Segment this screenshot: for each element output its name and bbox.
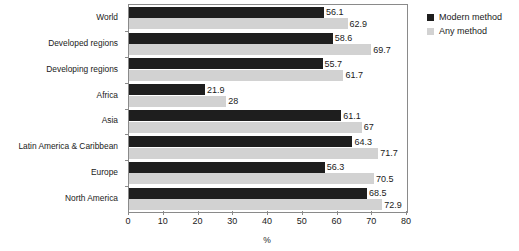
bar-modern-method [129,110,341,121]
bar-any-method [129,96,226,107]
x-axis-tick-label: 20 [192,217,202,226]
x-axis-tick-label: 10 [158,217,168,226]
bar-modern-method [129,84,205,95]
y-axis-tick [125,109,129,110]
bar-modern-method [129,136,352,147]
bar-value-label: 58.6 [335,34,353,43]
chart-legend: Modern methodAny method [427,12,517,40]
x-axis-tick-label: 80 [401,217,411,226]
bar-any-method [129,122,362,133]
category-label: Developed regions [48,39,118,47]
bar-value-label: 68.5 [369,189,387,198]
category-label: Africa [97,90,118,98]
x-axis-tick [337,211,338,215]
y-axis-category-labels: WorldDeveloped regionsDeveloping regions… [0,4,124,211]
y-axis-tick [125,31,129,32]
bar-value-label: 28 [228,97,238,106]
x-axis-tick-label: 70 [366,217,376,226]
bar-chart: WorldDeveloped regionsDeveloping regions… [0,0,519,251]
x-axis-tick [267,211,268,215]
category-label: Europe [91,168,118,176]
bar-any-method [129,199,382,210]
bar-modern-method [129,58,323,69]
bar-value-label: 71.7 [380,149,398,158]
bar-value-label: 62.9 [350,19,368,28]
bar-value-label: 55.7 [325,59,343,68]
category-label: Latin America & Caribbean [18,142,118,150]
plot-inner: 56.162.958.669.755.761.721.92861.16764.3… [129,5,407,212]
bar-any-method [129,173,374,184]
bar-any-method [129,18,348,29]
bar-modern-method [129,7,324,18]
legend-label: Any method [439,27,487,36]
bar-value-label: 70.5 [376,174,394,183]
bar-value-label: 72.9 [384,200,402,209]
legend-item: Modern method [427,12,517,23]
bar-any-method [129,44,371,55]
bar-value-label: 64.3 [354,137,372,146]
x-axis-tick-label: 60 [331,217,341,226]
bar-any-method [129,148,378,159]
bar-any-method [129,70,343,81]
legend-label: Modern method [439,13,502,22]
x-axis-tick-label: 50 [297,217,307,226]
category-label: World [96,13,118,21]
bar-value-label: 61.7 [345,71,363,80]
x-axis-tick [406,211,407,215]
bar-modern-method [129,33,333,44]
x-axis: % 01020304050607080 [128,211,406,251]
x-axis-tick [302,211,303,215]
y-axis-tick [125,186,129,187]
bar-value-label: 21.9 [207,85,225,94]
x-axis-tick-label: 0 [125,217,130,226]
plot-area: 56.162.958.669.755.761.721.92861.16764.3… [128,4,408,213]
y-axis-tick [125,134,129,135]
bar-value-label: 61.1 [343,111,361,120]
x-axis-tick [371,211,372,215]
bar-value-label: 67 [364,123,374,132]
bar-value-label: 69.7 [373,45,391,54]
legend-swatch-icon [427,14,434,21]
x-axis-tick-label: 30 [227,217,237,226]
category-label: Asia [102,116,118,124]
bar-value-label: 56.1 [326,8,344,17]
x-axis-tick [232,211,233,215]
y-axis-tick [125,83,129,84]
bar-modern-method [129,162,325,173]
x-axis-tick [198,211,199,215]
y-axis-tick [125,160,129,161]
legend-item: Any method [427,26,517,37]
bar-value-label: 56.3 [327,163,345,172]
bar-modern-method [129,188,367,199]
x-axis-title: % [263,236,271,245]
legend-swatch-icon [427,28,434,35]
x-axis-tick-label: 40 [262,217,272,226]
x-axis-tick [163,211,164,215]
category-label: North America [65,194,118,202]
y-axis-tick [125,57,129,58]
x-axis-tick [128,211,129,215]
category-label: Developing regions [46,64,118,72]
